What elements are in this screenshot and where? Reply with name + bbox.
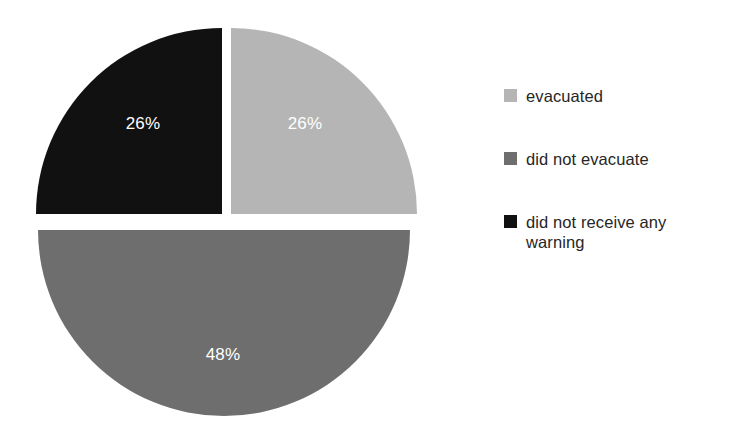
pie-slice-did-not-evacuate[interactable] [38,230,410,416]
pie-chart-figure: 26% 48% 26% evacuated did not evacuate d… [0,0,751,442]
legend-swatch-icon-did-not-receive-warning [504,215,517,228]
chart-legend: evacuated did not evacuate did not recei… [504,86,744,252]
legend-swatch-icon-evacuated [504,89,517,102]
pie-svg: 26% 48% 26% [30,18,430,424]
pie-label-evacuated: 26% [288,114,323,133]
pie-plot-area: 26% 48% 26% [30,18,430,424]
pie-slice-evacuated[interactable] [231,28,417,214]
legend-label-evacuated: evacuated [526,86,603,106]
legend-item-did-not-evacuate[interactable]: did not evacuate [504,149,744,169]
pie-label-did-not-evacuate: 48% [206,345,241,364]
legend-item-did-not-receive-warning[interactable]: did not receive any warning [504,212,744,252]
legend-label-did-not-receive-warning: did not receive any warning [526,212,726,252]
pie-label-did-not-receive-warning: 26% [126,114,161,133]
legend-label-did-not-evacuate: did not evacuate [526,149,649,169]
legend-item-evacuated[interactable]: evacuated [504,86,744,106]
legend-swatch-icon-did-not-evacuate [504,152,517,165]
